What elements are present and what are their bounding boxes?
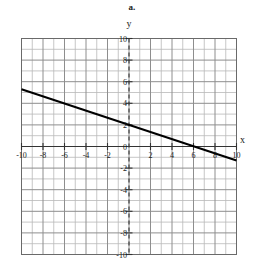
x-tick-label: 8 <box>213 151 217 160</box>
x-tick-label: 6 <box>192 151 196 160</box>
graph-figure: a. y x -10-8-6-4-22468101086420-2-4-6-8-… <box>0 0 261 270</box>
y-tick-label: -2 <box>113 164 127 173</box>
y-tick-label: 10 <box>113 34 127 43</box>
y-tick-label: -4 <box>113 185 127 194</box>
x-tick-label: 4 <box>170 151 174 160</box>
y-tick-label: -6 <box>113 207 127 216</box>
x-tick-label: -2 <box>104 151 111 160</box>
y-tick-label: -8 <box>113 228 127 237</box>
x-tick-label: -6 <box>61 151 68 160</box>
y-tick-label: 6 <box>113 77 127 86</box>
origin-label: 0 <box>113 142 127 151</box>
x-tick-label: 2 <box>149 151 153 160</box>
coordinate-plane <box>0 0 261 270</box>
x-tick-label: -8 <box>40 151 47 160</box>
x-tick-label: -4 <box>83 151 90 160</box>
y-tick-label: -10 <box>113 250 127 259</box>
x-tick-label: 10 <box>233 151 241 160</box>
x-tick-label: -10 <box>16 151 27 160</box>
y-tick-label: 8 <box>113 56 127 65</box>
y-tick-label: 4 <box>113 99 127 108</box>
y-tick-label: 2 <box>113 120 127 129</box>
